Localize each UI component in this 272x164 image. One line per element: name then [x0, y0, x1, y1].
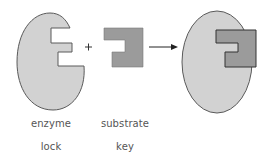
lock-and-key-diagram — [0, 0, 272, 164]
enzyme-shape — [17, 13, 84, 110]
arrow-icon — [149, 44, 178, 50]
substrate-shape — [104, 28, 143, 67]
substrate-label: substrate — [101, 118, 149, 129]
key-label: key — [116, 141, 134, 152]
plus-icon — [85, 44, 92, 51]
enzyme-label: enzyme — [31, 118, 71, 129]
lock-label: lock — [41, 141, 62, 152]
